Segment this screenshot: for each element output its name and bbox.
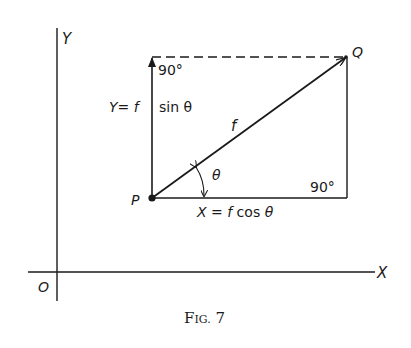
right-angle-label-bottom: 90° (310, 179, 335, 195)
point-p-label: P (131, 192, 140, 208)
origin-label: O (38, 279, 49, 295)
figure-caption: FIG. 7 (184, 309, 225, 327)
y-axis-label: Y (62, 30, 73, 48)
point-p (148, 194, 155, 201)
point-q (344, 55, 348, 59)
point-q-label: Q (352, 44, 363, 60)
resultant-vector-f (152, 58, 345, 198)
x-axis-label: X (376, 264, 388, 282)
y-component-label-left: Y= f (109, 99, 141, 115)
y-component-label-right: sin θ (159, 99, 192, 115)
vector-resolution-diagram: Y X O P Q 90° 90° Y= f sin θ f θ X = f c… (0, 0, 411, 348)
resultant-label: f (231, 117, 239, 135)
angle-arc (196, 167, 204, 196)
right-angle-label-top: 90° (158, 62, 183, 78)
angle-theta-label: θ (212, 167, 221, 183)
x-component-label: X = f cos θ (196, 204, 274, 220)
